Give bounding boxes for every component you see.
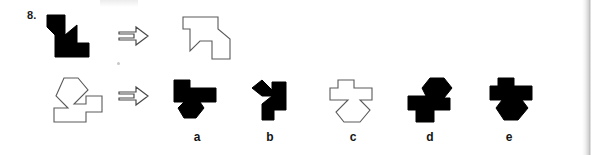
- boot-shape-path: [47, 15, 89, 57]
- page-edge-shadow: [582, 0, 591, 155]
- stimulus-black-boot-shape: [43, 13, 93, 61]
- option-label-d[interactable]: d: [418, 130, 442, 144]
- option-e-shape[interactable]: [482, 76, 540, 128]
- option-b-path: [252, 80, 286, 120]
- option-label-c[interactable]: c: [341, 130, 365, 144]
- option-c-shape[interactable]: [326, 76, 384, 128]
- option-a-path: [174, 80, 216, 118]
- option-b-shape[interactable]: [246, 76, 302, 126]
- scan-artifact-top: [100, 0, 138, 7]
- arrow-glyph-path-2: [119, 87, 148, 105]
- option-d-shape[interactable]: [404, 76, 462, 128]
- option-label-e[interactable]: e: [497, 130, 521, 144]
- option-d-path: [408, 78, 452, 122]
- option-label-a[interactable]: a: [185, 130, 209, 144]
- option-c-path: [330, 80, 372, 122]
- arrow-glyph-path: [119, 27, 148, 45]
- stimulus-outline-arrow-block-shape: [44, 74, 106, 128]
- question-number: 8.: [27, 9, 37, 21]
- option-label-b[interactable]: b: [258, 130, 282, 144]
- target-outline-shape: [180, 13, 236, 63]
- question-sheet: 8. a: [0, 0, 591, 155]
- transform-arrow-row1: [118, 25, 150, 51]
- stimulus-2-shape-path: [54, 78, 102, 122]
- option-e-path: [490, 78, 532, 120]
- target-shape-path: [183, 17, 230, 59]
- transform-arrow-row2: [118, 85, 150, 111]
- option-a-shape[interactable]: [170, 76, 230, 126]
- scan-artifact-dot: [117, 62, 120, 65]
